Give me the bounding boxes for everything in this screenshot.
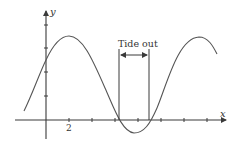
- x-axis-label: x: [220, 108, 226, 119]
- x-tick-label-2: 2: [66, 123, 72, 133]
- tide-out-bracket: [119, 49, 149, 120]
- tide-curve: [24, 36, 217, 133]
- y-axis-label: y: [49, 6, 56, 17]
- tide-chart: y x 2 Tide out: [0, 0, 236, 147]
- tide-out-label: Tide out: [118, 38, 158, 49]
